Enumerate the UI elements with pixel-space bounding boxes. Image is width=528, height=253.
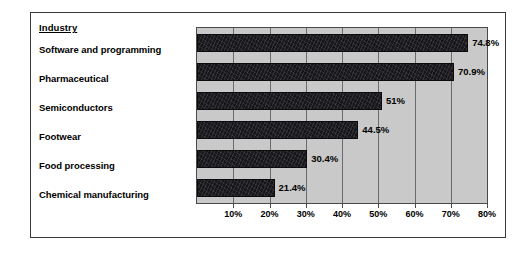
bar-pharmaceutical	[197, 63, 454, 81]
x-tick-label: 30%	[297, 209, 315, 219]
category-label-footwear: Footwear	[39, 122, 199, 151]
bar-row: 30.4%	[197, 145, 487, 174]
x-axis: 10%20%30%40%50%60%70%80%	[196, 204, 488, 226]
category-label-pharmaceutical: Pharmaceutical	[39, 64, 199, 93]
category-axis-labels: Industry Software and programming Pharma…	[39, 21, 199, 209]
bar-series: 74.8%70.9%51%44.5%30.4%21.4%	[197, 28, 487, 203]
bar-food-processing	[197, 150, 307, 168]
chart-figure-frame: Industry Software and programming Pharma…	[30, 12, 506, 238]
bar-value-label: 30.4%	[307, 150, 338, 168]
x-tick-label: 60%	[405, 209, 423, 219]
x-tick-label: 10%	[224, 209, 242, 219]
bar-row: 21.4%	[197, 174, 487, 203]
category-label-food-processing: Food processing	[39, 151, 199, 180]
x-tick-label: 40%	[333, 209, 351, 219]
category-label-software: Software and programming	[39, 35, 199, 64]
bar-footwear	[197, 121, 358, 139]
x-tick-label: 20%	[260, 209, 278, 219]
bar-chemical-manufacturing	[197, 179, 275, 197]
x-tick-label: 50%	[369, 209, 387, 219]
bar-row: 51%	[197, 87, 487, 116]
tick-mark-30%	[306, 204, 307, 208]
bar-row: 44.5%	[197, 116, 487, 145]
tick-mark-80%	[487, 204, 488, 208]
x-tick-label: 70%	[442, 209, 460, 219]
category-axis-title: Industry	[39, 21, 199, 35]
tick-mark-20%	[270, 204, 271, 208]
bar-value-label: 51%	[382, 92, 405, 110]
bar-row: 70.9%	[197, 58, 487, 87]
category-label-semiconductors: Semiconductors	[39, 93, 199, 122]
category-label-chemical-manufacturing: Chemical manufacturing	[39, 180, 199, 209]
x-tick-label: 80%	[478, 209, 496, 219]
chart-plot-area: 74.8%70.9%51%44.5%30.4%21.4%	[196, 27, 488, 204]
tick-mark-70%	[451, 204, 452, 208]
bar-value-label: 70.9%	[454, 63, 485, 81]
bar-value-label: 74.8%	[468, 34, 499, 52]
bar-semiconductors	[197, 92, 382, 110]
tick-mark-40%	[342, 204, 343, 208]
bar-value-label: 44.5%	[358, 121, 389, 139]
bar-row: 74.8%	[197, 29, 487, 58]
bar-value-label: 21.4%	[275, 179, 306, 197]
tick-mark-60%	[415, 204, 416, 208]
tick-mark-50%	[378, 204, 379, 208]
tick-mark-10%	[233, 204, 234, 208]
bar-software-and-programming	[197, 34, 468, 52]
